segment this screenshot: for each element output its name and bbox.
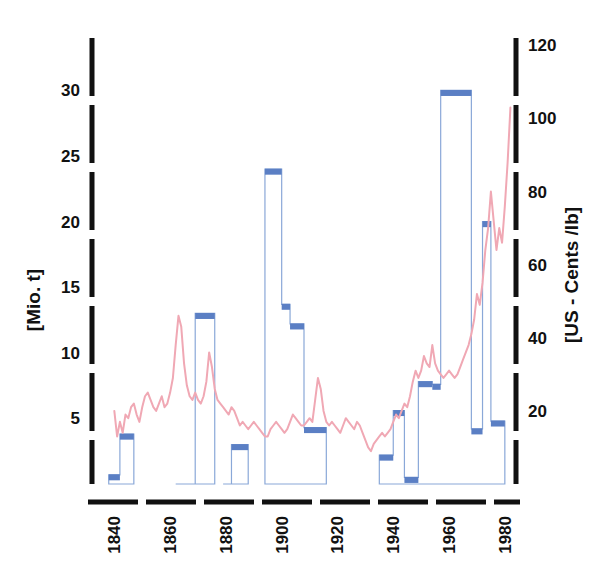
bar-cap [282,304,290,310]
bar-cap [404,477,418,483]
x-tick-label: 1980 [496,516,515,554]
x-tick-label: 1860 [161,516,180,554]
x-tick-label: 1900 [273,516,292,554]
bar-cap [441,90,472,96]
bar-cap [304,427,326,433]
y-axis-right-title: [US - Cents /lb] [561,207,582,343]
y2-tick-label: 40 [528,329,547,348]
y-tick-label: 30 [61,81,80,100]
y-axis-left-title: [Mio. t] [23,269,44,331]
x-tick-label: 1840 [105,516,124,554]
bar-cap [265,169,282,175]
y2-tick-label: 20 [528,402,547,421]
y-tick-label: 25 [61,147,80,166]
y2-tick-label: 120 [528,36,556,55]
y2-tick-label: 60 [528,256,547,275]
y-tick-label: 5 [71,409,80,428]
chart-figure: 51015202530 20406080100120 1840186018801… [0,0,614,588]
bar-cap [231,444,248,450]
y-tick-label: 20 [61,213,80,232]
x-tick-label: 1880 [217,516,236,554]
bar-cap [432,384,440,390]
x-tick-label: 1940 [384,516,403,554]
bar-cap [290,323,304,329]
bar-cap [379,455,393,461]
bar-cap [471,428,482,434]
bar-cap [195,313,215,319]
x-tick-label: 1960 [440,516,459,554]
y-tick-label: 10 [61,344,80,363]
chart-canvas: 51015202530 20406080100120 1840186018801… [0,0,614,588]
y2-tick-label: 80 [528,183,547,202]
bar-cap [120,434,134,440]
bar-cap [491,421,505,427]
y-tick-label: 15 [61,278,80,297]
bar-cap [483,221,491,227]
bar-cap [109,474,120,480]
bar-cap [418,381,432,387]
y2-tick-label: 100 [528,109,556,128]
x-tick-label: 1920 [328,516,347,554]
